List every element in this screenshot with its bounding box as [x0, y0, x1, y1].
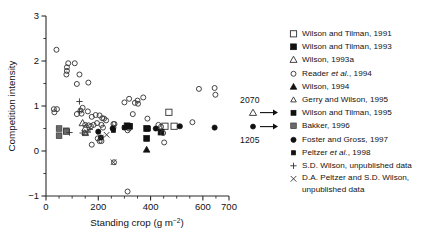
data-point — [153, 126, 158, 131]
legend-item[interactable]: D.A. Peltzer and S.D. Wilson, unpublishe… — [288, 172, 445, 196]
legend-item[interactable]: S.D. Wilson, unpublished data — [288, 159, 445, 172]
legend-marker-filled-square-tiny-icon — [288, 146, 302, 159]
legend-item[interactable]: Foster and Gross, 1997 — [288, 133, 445, 146]
y-axis-tick-labels: −10123 — [28, 10, 39, 201]
data-point — [141, 95, 146, 100]
legend-item-label: D.A. Peltzer and S.D. Wilson, unpublishe… — [302, 172, 445, 195]
data-point — [290, 31, 296, 37]
legend-marker-plus-icon — [288, 159, 302, 172]
data-point — [72, 61, 77, 66]
series-group — [162, 109, 177, 129]
data-point — [127, 96, 132, 101]
data-point — [74, 81, 79, 86]
data-point — [290, 83, 297, 89]
legend-marker-filled-square-sm-icon — [288, 106, 302, 119]
data-point — [290, 163, 296, 169]
data-point — [74, 112, 79, 117]
data-point — [76, 108, 82, 114]
legend-item-label: Bakker, 1996 — [302, 119, 350, 132]
legend-item[interactable]: Wilson and Tilman, 1993 — [288, 40, 445, 53]
data-point — [64, 129, 70, 135]
x-axis-ticks — [46, 196, 229, 201]
x-tick-label: 200 — [90, 201, 106, 212]
legend-marker-open-circle-icon — [288, 67, 302, 80]
y-axis-title: Competition intensity — [6, 60, 17, 151]
data-point — [291, 123, 297, 129]
figure-scatter-competition-intensity: −10123 0200400600700 Competition intensi… — [0, 0, 445, 233]
legend-item[interactable]: Bakker, 1996 — [288, 119, 445, 132]
data-point — [145, 116, 150, 121]
x-tick-label: 700 — [221, 201, 237, 212]
x-axis-title: Standing crop (g m−2) — [90, 217, 184, 228]
legend: Wilson and Tilman, 1991Wilson and Tilman… — [288, 27, 445, 196]
data-point — [212, 125, 217, 130]
legend-marker-open-square-icon — [288, 27, 302, 40]
data-point — [291, 97, 297, 102]
legend-item-label: S.D. Wilson, unpublished data — [302, 159, 412, 172]
legend-item[interactable]: Wilson, 1993a — [288, 53, 445, 66]
data-point — [190, 120, 195, 125]
series-group — [143, 146, 150, 152]
y-tick-label: 0 — [34, 145, 39, 156]
legend-marker-open-triangle-large-icon — [288, 53, 302, 66]
x-tick-label: 0 — [43, 201, 48, 212]
legend-item-label: Wilson, 1993a — [302, 53, 354, 66]
x-tick-label: 600 — [195, 201, 211, 212]
y-tick-label: 2 — [34, 55, 39, 66]
offscale-annotations: 2070 1205 — [240, 95, 288, 147]
annotation-value-2070: 2070 — [240, 95, 260, 105]
legend-item-label: Reader et al., 1994 — [302, 67, 372, 80]
data-point — [130, 112, 135, 117]
data-point — [76, 98, 82, 104]
annotation-value-1205: 1205 — [240, 135, 260, 145]
data-point — [143, 146, 150, 152]
legend-marker-gray-square-icon — [288, 119, 302, 132]
x-axis-tick-labels: 0200400600700 — [43, 201, 237, 212]
legend-item-label: Gerry and Wilson, 1995 — [302, 93, 388, 106]
data-point — [291, 44, 297, 50]
data-point — [166, 109, 172, 115]
data-point — [144, 136, 150, 142]
legend-item-label: Peltzer et al., 1998 — [302, 146, 371, 159]
y-axis-ticks — [42, 16, 47, 196]
data-point — [104, 132, 110, 138]
y-tick-label: 3 — [34, 10, 39, 21]
data-point — [85, 109, 90, 114]
data-point — [136, 101, 141, 106]
data-point — [56, 126, 62, 132]
data-point — [111, 128, 115, 132]
legend-item-label: Wilson and Tilman, 1993 — [302, 40, 392, 53]
data-points-group — [51, 47, 218, 194]
data-point — [54, 47, 59, 52]
legend-marker-filled-square-icon — [288, 40, 302, 53]
legend-item[interactable]: Wilson and Tilman, 1995 — [288, 106, 445, 119]
series-group — [51, 47, 218, 194]
legend-item-label: Foster and Gross, 1997 — [302, 133, 388, 146]
data-point — [122, 126, 126, 130]
data-point — [162, 140, 167, 145]
legend-item[interactable]: Peltzer et al., 1998 — [288, 146, 445, 159]
legend-item-label: Wilson and Tilman, 1995 — [302, 106, 392, 119]
data-point — [291, 137, 296, 142]
legend-item[interactable]: Gerry and Wilson, 1995 — [288, 93, 445, 106]
legend-item[interactable]: Wilson, 1994 — [288, 80, 445, 93]
data-point — [213, 92, 218, 97]
legend-item-label: Wilson and Tilman, 1991 — [302, 27, 392, 40]
data-point — [89, 142, 94, 147]
annotation-marker-triangle-arrow — [248, 107, 278, 119]
data-point — [196, 86, 201, 91]
legend-item[interactable]: Reader et al., 1994 — [288, 67, 445, 80]
data-point — [125, 189, 130, 194]
data-point — [127, 124, 132, 129]
data-point — [145, 126, 150, 131]
data-point — [77, 72, 82, 77]
legend-item[interactable]: Wilson and Tilman, 1991 — [288, 27, 445, 40]
data-point — [177, 124, 182, 129]
legend-marker-open-triangle-small-icon — [288, 93, 302, 106]
data-point — [86, 80, 91, 85]
data-point — [291, 110, 296, 115]
legend-marker-cross-icon — [288, 172, 302, 185]
x-tick-label: 400 — [143, 201, 159, 212]
data-point — [290, 57, 297, 63]
data-point — [291, 150, 295, 154]
